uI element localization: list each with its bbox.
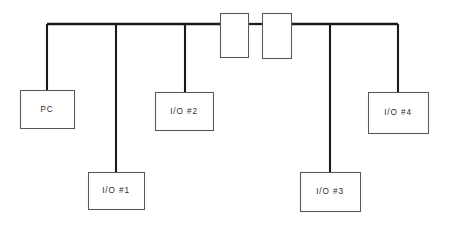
diagram-canvas: PC I/O #1 I/O #2 I/O #3 I/O #4 bbox=[0, 0, 449, 229]
bus-network-diagram: PC I/O #1 I/O #2 I/O #3 I/O #4 bbox=[0, 0, 449, 229]
node-label-pc: PC bbox=[40, 105, 53, 114]
node-label-io1: I/O #1 bbox=[102, 186, 130, 195]
node-label-io2: I/O #2 bbox=[170, 107, 198, 116]
connector-right-box bbox=[263, 14, 292, 59]
node-label-io3: I/O #3 bbox=[316, 187, 344, 196]
node-label-io4: I/O #4 bbox=[384, 108, 412, 117]
connector-left-box bbox=[221, 14, 249, 58]
node-box-group bbox=[21, 91, 429, 212]
connector-group bbox=[221, 14, 292, 59]
